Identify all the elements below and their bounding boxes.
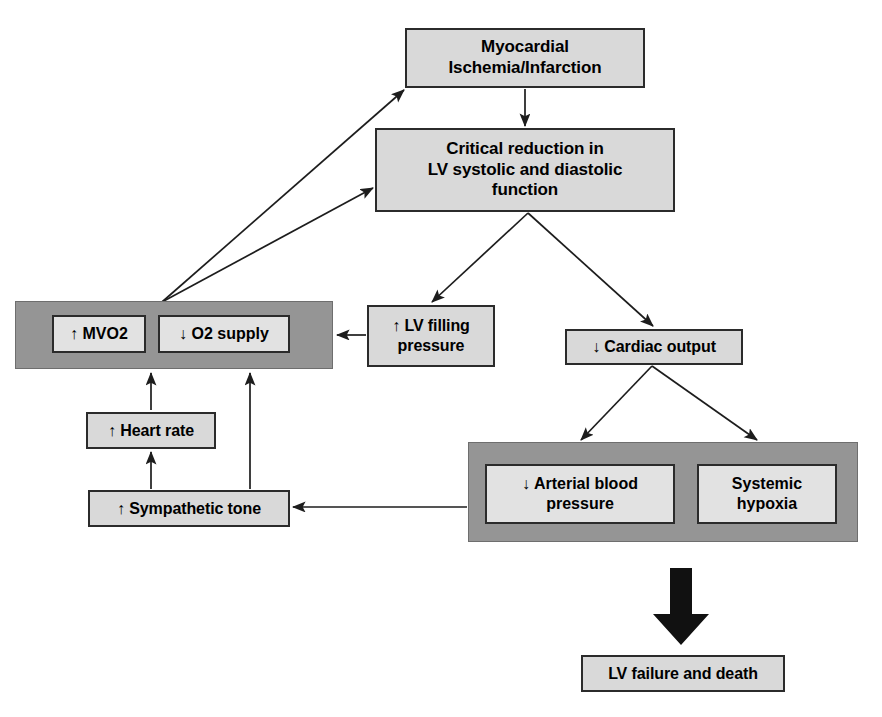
node-heart-rate[interactable]: ↑ Heart rate	[86, 412, 216, 449]
node-arterial-blood-pressure[interactable]: ↓ Arterial blood pressure	[485, 464, 675, 524]
node-mvo2[interactable]: ↑ MVO2	[52, 315, 146, 353]
connector-critical-to-cardiac-output	[528, 213, 653, 326]
connector-oxygen-to-myocardial	[162, 90, 404, 302]
node-lv-filling-pressure[interactable]: ↑ LV filling pressure	[367, 305, 495, 367]
node-sympathetic-tone[interactable]: ↑ Sympathetic tone	[88, 490, 290, 527]
node-myocardial-ischemia-infarction[interactable]: Myocardial Ischemia/Infarction	[405, 28, 645, 88]
node-cardiac-output[interactable]: ↓ Cardiac output	[565, 329, 743, 365]
connector-cardiac-to-hypoxia	[652, 366, 757, 440]
node-systemic-hypoxia[interactable]: Systemic hypoxia	[697, 464, 837, 524]
connector-cardiac-to-arterial-bp	[581, 366, 652, 440]
node-o2-supply[interactable]: ↓ O2 supply	[158, 315, 290, 353]
flowchart-canvas: ↑ MVO2 ↓ O2 supply ↓ Arterial blood pres…	[0, 0, 882, 717]
node-critical-reduction-lv-function[interactable]: Critical reduction in LV systolic and di…	[375, 128, 675, 212]
node-lv-failure-and-death[interactable]: LV failure and death	[581, 655, 785, 692]
connector-oxygen-to-critical	[162, 188, 373, 302]
connector-critical-to-lv-filling	[432, 213, 528, 302]
outcome-block-arrow-icon	[652, 568, 710, 646]
